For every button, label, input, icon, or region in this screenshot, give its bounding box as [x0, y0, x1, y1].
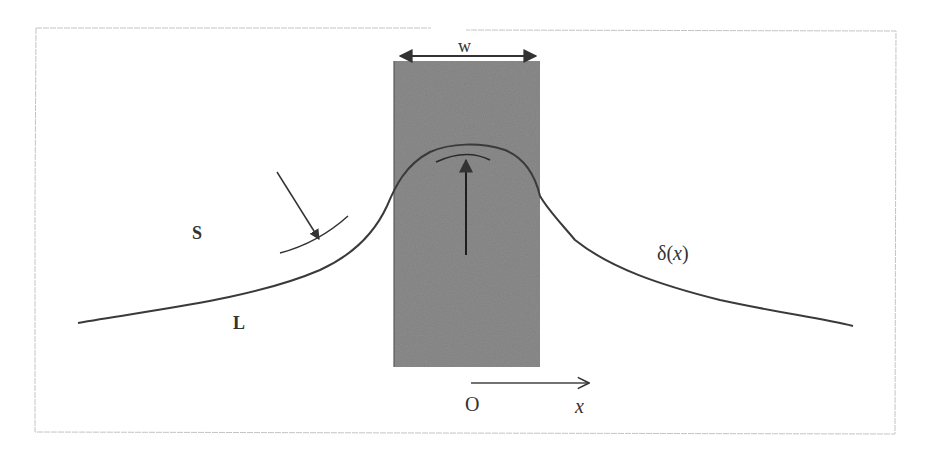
- x-axis-label: x: [575, 396, 584, 416]
- profile-variable: x: [673, 242, 682, 264]
- origin-label: O: [465, 394, 479, 414]
- width-label: w: [458, 37, 471, 55]
- profile-close-paren: ): [682, 242, 689, 264]
- liquid-label: L: [233, 314, 245, 332]
- profile-label: δ(x): [657, 243, 689, 263]
- diagram-canvas: [0, 0, 932, 460]
- interface-arc: [280, 216, 348, 253]
- solid-label: S: [192, 224, 202, 242]
- diagram-figure: w S L δ(x) O x: [0, 0, 932, 460]
- diagonal-arrow: [277, 172, 319, 239]
